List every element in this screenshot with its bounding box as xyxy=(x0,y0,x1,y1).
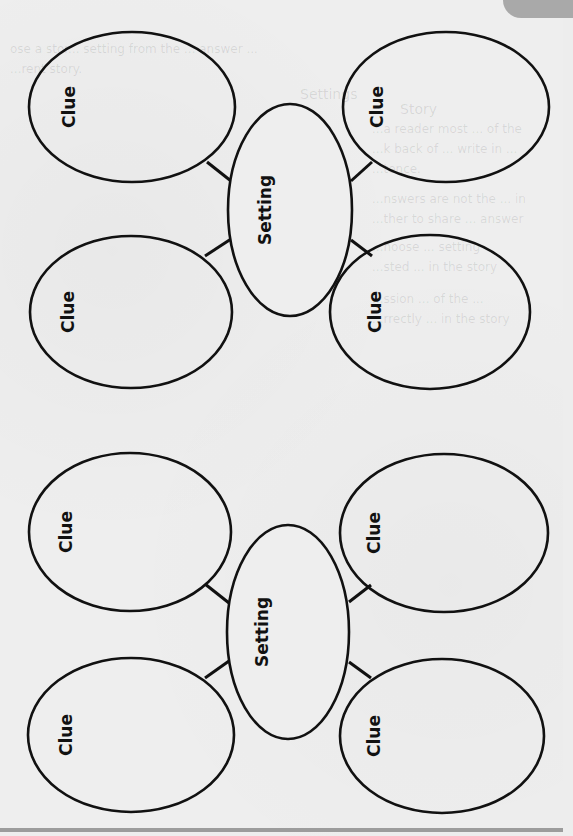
clue-label: Clue xyxy=(58,291,78,333)
setting-oval[interactable]: Setting xyxy=(227,525,349,739)
setting-web-diagram-1: Clue Clue Clue Clue Setting xyxy=(29,32,549,389)
connector-line xyxy=(205,239,231,256)
clue-label: Clue xyxy=(59,86,79,128)
clue-oval-bottom-right[interactable]: Clue xyxy=(330,235,530,389)
connector-line xyxy=(207,162,231,181)
clue-label: Clue xyxy=(56,714,76,756)
setting-label: Setting xyxy=(252,597,272,667)
clue-label: Clue xyxy=(364,512,384,554)
connector-line xyxy=(351,240,372,256)
clue-oval-top-left[interactable]: Clue xyxy=(29,453,231,611)
clue-label: Clue xyxy=(364,715,384,757)
page-bottom-rule xyxy=(0,828,563,832)
clue-oval-top-right[interactable]: Clue xyxy=(340,454,548,612)
connector-line xyxy=(205,661,229,678)
clue-label: Clue xyxy=(365,291,385,333)
connector-line xyxy=(351,162,372,181)
setting-oval[interactable]: Setting xyxy=(228,104,352,316)
connector-line xyxy=(205,584,229,603)
clue-label: Clue xyxy=(56,511,76,553)
clue-label: Clue xyxy=(367,86,387,128)
clue-oval-bottom-left[interactable]: Clue xyxy=(30,236,232,388)
setting-web-diagram-2: Clue Clue Clue Clue Setting xyxy=(28,453,548,813)
clue-oval-top-right[interactable]: Clue xyxy=(343,32,549,182)
clue-oval-top-left[interactable]: Clue xyxy=(29,32,235,182)
clue-oval-bottom-right[interactable]: Clue xyxy=(340,659,544,813)
connector-line xyxy=(349,662,371,678)
clue-oval-bottom-left[interactable]: Clue xyxy=(28,658,234,812)
setting-label: Setting xyxy=(255,175,275,245)
